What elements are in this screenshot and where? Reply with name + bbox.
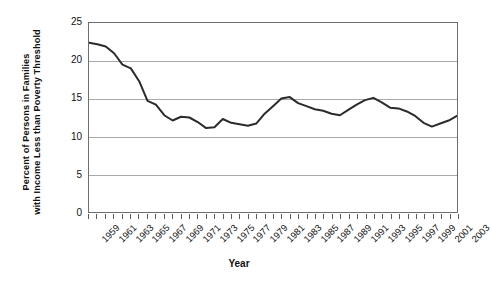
y-axis-title: Percent of Persons in Families with Inco… bbox=[21, 22, 55, 222]
x-tick-1962 bbox=[113, 214, 114, 219]
x-tick-1995 bbox=[391, 214, 392, 219]
x-tick-1992 bbox=[366, 214, 367, 219]
y-tick-label-5: 5 bbox=[56, 170, 82, 180]
x-tick-1972 bbox=[197, 214, 198, 219]
x-axis-title: Year bbox=[0, 258, 478, 269]
x-tick-1978 bbox=[248, 214, 249, 219]
x-tick-1997 bbox=[408, 214, 409, 219]
y-tick-label-25: 25 bbox=[56, 17, 82, 27]
y-tick-label-0: 0 bbox=[56, 208, 82, 218]
x-tick-1961 bbox=[105, 214, 106, 219]
y-axis-title-line-1: Percent of Persons in Families bbox=[21, 22, 32, 222]
x-tick-1987 bbox=[323, 214, 324, 219]
x-tick-1967 bbox=[155, 214, 156, 219]
x-tick-label-2003: 2003 bbox=[469, 222, 492, 245]
x-tick-1959 bbox=[88, 214, 89, 219]
x-tick-1994 bbox=[382, 214, 383, 219]
y-tick-label-10: 10 bbox=[56, 132, 82, 142]
x-tick-1988 bbox=[332, 214, 333, 219]
x-tick-1996 bbox=[399, 214, 400, 219]
x-tick-1963 bbox=[122, 214, 123, 219]
x-tick-1990 bbox=[349, 214, 350, 219]
x-tick-2003 bbox=[458, 214, 459, 219]
x-tick-1981 bbox=[273, 214, 274, 219]
x-tick-1960 bbox=[96, 214, 97, 219]
x-tick-2000 bbox=[433, 214, 434, 219]
x-tick-1985 bbox=[307, 214, 308, 219]
x-tick-1984 bbox=[298, 214, 299, 219]
x-tick-1965 bbox=[138, 214, 139, 219]
x-tick-1966 bbox=[147, 214, 148, 219]
x-tick-1986 bbox=[315, 214, 316, 219]
x-tick-1991 bbox=[357, 214, 358, 219]
x-tick-2001 bbox=[441, 214, 442, 219]
x-tick-1974 bbox=[214, 214, 215, 219]
plot-area bbox=[88, 22, 458, 213]
x-tick-1970 bbox=[181, 214, 182, 219]
x-tick-1993 bbox=[374, 214, 375, 219]
x-tick-1976 bbox=[231, 214, 232, 219]
x-tick-1973 bbox=[206, 214, 207, 219]
y-tick-label-20: 20 bbox=[56, 55, 82, 65]
y-axis-title-line-2: with Income Less than Poverty Threshold bbox=[32, 22, 43, 222]
x-tick-1989 bbox=[340, 214, 341, 219]
x-tick-1969 bbox=[172, 214, 173, 219]
x-tick-1977 bbox=[239, 214, 240, 219]
y-tick-label-15: 15 bbox=[56, 93, 82, 103]
x-tick-1982 bbox=[281, 214, 282, 219]
x-tick-1999 bbox=[424, 214, 425, 219]
x-tick-1968 bbox=[164, 214, 165, 219]
x-tick-1983 bbox=[290, 214, 291, 219]
x-tick-1971 bbox=[189, 214, 190, 219]
x-tick-1980 bbox=[265, 214, 266, 219]
x-tick-2002 bbox=[450, 214, 451, 219]
x-tick-1998 bbox=[416, 214, 417, 219]
x-tick-1979 bbox=[256, 214, 257, 219]
x-tick-1975 bbox=[223, 214, 224, 219]
series-line-poverty-rate bbox=[89, 23, 457, 212]
x-tick-1964 bbox=[130, 214, 131, 219]
